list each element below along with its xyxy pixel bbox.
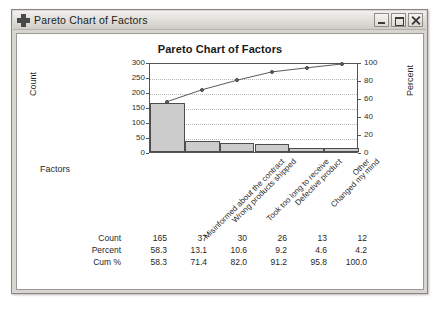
category-label: Misinformed about the contract	[203, 157, 287, 241]
window-title: Pareto Chart of Factors	[34, 14, 148, 26]
plot-area	[149, 63, 358, 153]
y-tick-label-count: 0	[119, 148, 145, 157]
y-tick-mark-left	[146, 153, 149, 154]
y-tick-label-percent: 80	[364, 76, 390, 85]
data-point-marker	[200, 88, 204, 92]
table-row-label: Count	[69, 233, 127, 245]
table-cell: 9.2	[247, 245, 287, 257]
table-cell: 37	[167, 233, 207, 245]
table-row-label: Percent	[69, 245, 127, 257]
y-tick-label-percent: 60	[364, 94, 390, 103]
table-cell: 91.2	[247, 257, 287, 269]
y-tick-label-percent: 0	[364, 148, 390, 157]
data-point-marker	[235, 78, 239, 82]
table-cell: 26	[247, 233, 287, 245]
minimize-button[interactable]	[374, 13, 389, 27]
category-label: Wrong products shipped	[231, 157, 299, 225]
table-cell: 95.8	[287, 257, 327, 269]
table-cell: 13	[287, 233, 327, 245]
table-cell: 13.1	[167, 245, 207, 257]
y-axis-title-count: Count	[28, 72, 38, 96]
table-cell: 100.0	[327, 257, 367, 269]
table-cell: 58.3	[127, 245, 167, 257]
window-titlebar[interactable]: Pareto Chart of Factors	[13, 11, 426, 30]
y-tick-label-count: 200	[119, 88, 145, 97]
cumulative-line	[150, 64, 357, 152]
data-point-marker	[305, 66, 309, 70]
y-tick-label-count: 150	[119, 103, 145, 112]
y-tick-label-count: 250	[119, 73, 145, 82]
y-tick-mark-right	[358, 81, 361, 82]
y-tick-label-count: 100	[119, 118, 145, 127]
y-tick-label-percent: 40	[364, 112, 390, 121]
y-tick-mark-right	[358, 99, 361, 100]
y-tick-label-count: 50	[119, 133, 145, 142]
data-point-marker	[270, 70, 274, 74]
table-cell: 82.0	[207, 257, 247, 269]
y-tick-mark-right	[358, 135, 361, 136]
y-tick-label-count: 300	[119, 58, 145, 67]
y-axis-title-percent: Percent	[405, 65, 415, 96]
chart-window: Pareto Chart of Factors Pareto Chart of …	[11, 9, 428, 294]
close-button[interactable]	[408, 13, 423, 27]
table-row: Percent58.313.110.69.24.64.2	[69, 245, 367, 257]
summary-data-table: Count1653730261312Percent58.313.110.69.2…	[69, 233, 367, 269]
y-tick-mark-right	[358, 117, 361, 118]
table-cell: 30	[207, 233, 247, 245]
table-cell: 58.3	[127, 257, 167, 269]
table-row-label: Cum %	[69, 257, 127, 269]
table-cell: 71.4	[167, 257, 207, 269]
data-point-marker	[340, 62, 344, 66]
window-controls	[374, 13, 423, 27]
table-row: Cum %58.371.482.091.295.8100.0	[69, 257, 367, 269]
table-cell: 165	[127, 233, 167, 245]
y-tick-mark-right	[358, 63, 361, 64]
y-tick-mark-right	[358, 153, 361, 154]
x-axis-title-factors: Factors	[40, 164, 70, 174]
maximize-button[interactable]	[391, 13, 406, 27]
table-cell: 4.6	[287, 245, 327, 257]
table-cell: 12	[327, 233, 367, 245]
table-cell: 10.6	[207, 245, 247, 257]
y-tick-label-percent: 20	[364, 130, 390, 139]
table-cell: 4.2	[327, 245, 367, 257]
y-tick-label-percent: 100	[364, 58, 390, 67]
data-point-marker	[165, 100, 169, 104]
crosshair-plus-icon	[17, 14, 30, 27]
chart-client-area: Pareto Chart of Factors Count Percent Fa…	[16, 33, 424, 290]
table-row: Count1653730261312	[69, 233, 367, 245]
